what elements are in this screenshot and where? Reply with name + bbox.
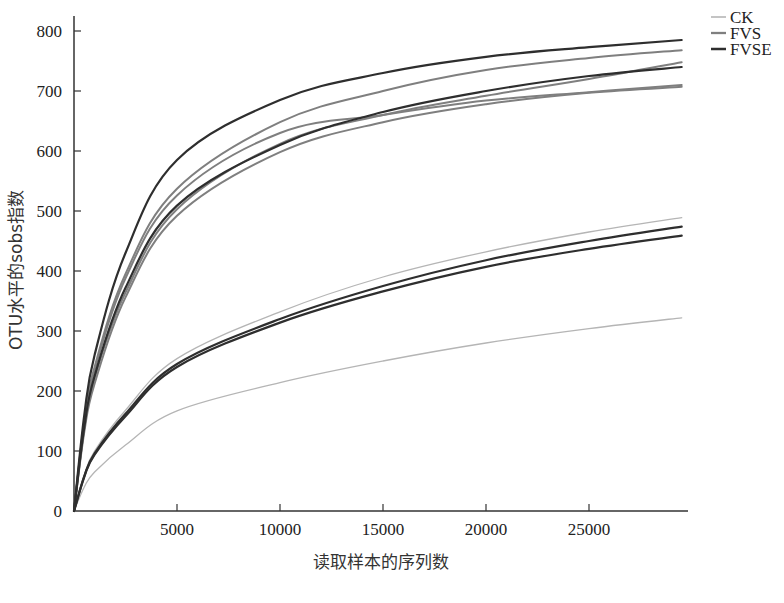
- x-axis-title: 读取样本的序列数: [313, 552, 449, 572]
- y-tick-label: 600: [37, 142, 63, 161]
- legend: CKFVSFVSE: [711, 8, 772, 59]
- y-tick-label: 400: [37, 262, 63, 281]
- series-line-ck-6: [74, 218, 682, 511]
- series-line-fvse-3: [74, 67, 682, 511]
- y-axis-title: OTU水平的sobs指数: [6, 190, 26, 350]
- y-tick-label: 700: [37, 82, 63, 101]
- y-tick-label: 800: [37, 22, 63, 41]
- legend-item-fvse: FVSE: [711, 40, 772, 59]
- series-line-ck-9: [74, 318, 682, 511]
- series-line-fvs-2: [74, 85, 682, 511]
- y-tick-label: 0: [54, 502, 63, 521]
- series-line-fvse-0: [74, 40, 682, 511]
- series-line-fvs-5: [74, 87, 682, 511]
- x-tick-label: 5000: [160, 520, 194, 539]
- y-tick-label: 100: [37, 442, 63, 461]
- legend-label: FVSE: [730, 40, 772, 59]
- y-tick-label: 300: [37, 322, 63, 341]
- series-line-fvs-1: [74, 50, 682, 511]
- y-tick-label: 500: [37, 202, 63, 221]
- x-tick-label: 25000: [568, 520, 611, 539]
- x-axis-ticks: 500010000150002000025000: [160, 504, 610, 539]
- plot-series: [74, 40, 682, 511]
- rarefaction-chart: 0100200300400500600700800 50001000015000…: [0, 0, 784, 603]
- series-line-fvse-7: [74, 227, 682, 511]
- x-tick-label: 10000: [259, 520, 302, 539]
- x-tick-label: 20000: [465, 520, 508, 539]
- x-tick-label: 15000: [362, 520, 405, 539]
- y-tick-label: 200: [37, 382, 63, 401]
